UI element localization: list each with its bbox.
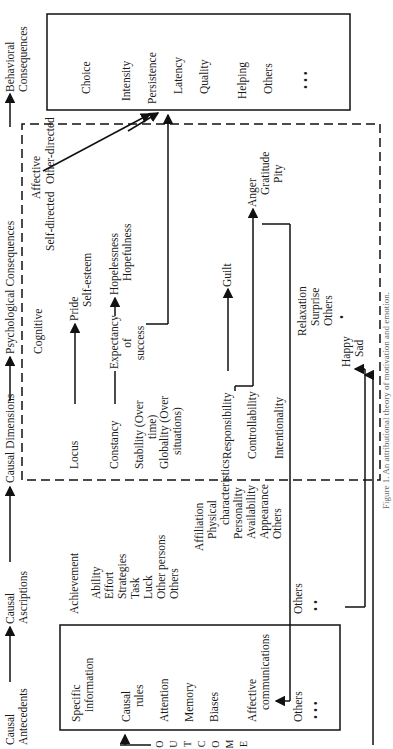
label-line: Gratitude xyxy=(259,152,272,207)
label-line: Pity xyxy=(272,152,285,207)
label-line: success xyxy=(134,317,147,369)
dimension-stability: Stability (Over time) xyxy=(133,400,159,469)
dimension-controllability: Controllability xyxy=(246,391,259,459)
antecedent-ellipsis: • • • xyxy=(310,701,323,719)
ascription-item: Availability xyxy=(245,459,258,539)
label-line: Hopelessness xyxy=(108,224,121,296)
label-line: Relaxation xyxy=(296,286,309,336)
dimension-intentionality: Intentionality xyxy=(273,397,286,459)
antecedent-affective-communications: Affective communications xyxy=(246,634,272,722)
psych-expectancy-of-success: Expectancy of success xyxy=(108,317,147,369)
label-line: information xyxy=(83,658,96,722)
label-line: Causal xyxy=(120,685,133,722)
ascription-item: Other persons xyxy=(155,535,168,599)
header-line: Consequences xyxy=(17,26,30,92)
label-line: of xyxy=(121,317,134,369)
header-line: Antecedents xyxy=(17,688,30,745)
ascription-affiliation: Affiliation xyxy=(193,503,206,551)
header-line: Behavioral xyxy=(4,26,17,92)
label-line: Specific xyxy=(70,658,83,722)
label-line: Affective xyxy=(246,634,259,722)
label-line: Pride xyxy=(68,253,81,321)
ascription-item: Luck xyxy=(142,535,155,599)
behavior-helping: Helping xyxy=(236,62,249,99)
ascription-achievement-list: Ability Effort Strategies Task Luck Othe… xyxy=(90,535,181,599)
behavior-choice: Choice xyxy=(80,61,93,94)
ascription-item: Appearance xyxy=(258,459,271,539)
label-line: Hopefulness xyxy=(121,224,134,296)
psych-anger-gratitude-pity: Anger Gratitude Pity xyxy=(246,152,285,207)
header-line: Ascriptions xyxy=(17,571,30,624)
outcome-letter: E xyxy=(237,739,251,749)
psych-affective: Affective xyxy=(30,156,43,199)
ascription-item: Others xyxy=(271,459,284,539)
behavior-latency: Latency xyxy=(172,57,185,94)
outcome-letter: T xyxy=(181,739,195,749)
label-line: Self-esteem xyxy=(81,253,94,321)
ascription-others: Others xyxy=(292,583,305,614)
behavior-quality: Quality xyxy=(198,60,211,95)
outcome-letter: U xyxy=(167,739,181,749)
psych-other-directed: Other-directed xyxy=(44,117,57,184)
behavior-persistence: Persistence xyxy=(146,52,159,104)
dimension-responsibility: Responsibility xyxy=(221,393,234,459)
antecedent-attention: Attention xyxy=(158,679,171,722)
behavior-intensity: Intensity xyxy=(120,61,133,101)
antecedent-biases: Biases xyxy=(208,692,221,722)
ascription-item: Personality xyxy=(232,459,245,539)
header-psychological-consequences: Psychological Consequences xyxy=(4,221,17,354)
dimension-constancy: Constancy xyxy=(108,420,121,469)
label-line: rules xyxy=(133,685,146,722)
attribution-diagram: Causal Antecedents Causal Ascriptions Ca… xyxy=(0,0,393,749)
outcome-letter: O xyxy=(209,739,223,749)
outcome-letter: M xyxy=(223,739,237,749)
dimension-globality: Globality (Over situations) xyxy=(158,396,184,469)
ascription-item: Task xyxy=(129,535,142,599)
label-line: communications xyxy=(259,634,272,722)
label-line: Happy xyxy=(340,336,353,367)
antecedent-others: Others xyxy=(292,691,305,722)
outcome-label: O U T C O M E xyxy=(153,739,251,749)
outcome-letter: O xyxy=(153,739,167,749)
label-line: Stability (Over xyxy=(133,400,146,469)
ascription-item: Effort xyxy=(103,535,116,599)
ascription-item: Strategies xyxy=(116,535,129,599)
diagram-lines xyxy=(0,0,393,749)
label-line: Others xyxy=(322,286,335,336)
ascription-item: Others xyxy=(168,535,181,599)
ascription-item: Physical xyxy=(206,459,219,539)
antecedent-causal-rules: Causal rules xyxy=(120,685,146,722)
header-causal-antecedents: Causal Antecedents xyxy=(4,688,30,745)
ascription-achievement: Achievement xyxy=(68,553,81,614)
psych-misc-emotions: Relaxation Surprise Others xyxy=(296,286,335,336)
label-line: Globality (Over xyxy=(158,396,171,469)
psych-happy-sad: Happy Sad xyxy=(340,336,366,367)
psych-self-directed: Self-directed xyxy=(44,192,57,251)
behavior-others: Others xyxy=(262,63,275,94)
psych-cognitive: Cognitive xyxy=(32,309,45,354)
ascription-ellipsis: • • xyxy=(310,600,323,611)
psych-pride: Pride Self-esteem xyxy=(68,253,94,321)
figure-caption: Figure 1. An attributional theory of mot… xyxy=(380,292,393,509)
dimension-locus: Locus xyxy=(68,441,81,469)
header-behavioral-consequences: Behavioral Consequences xyxy=(4,26,30,92)
header-line: Causal xyxy=(4,571,17,624)
antecedent-memory: Memory xyxy=(183,682,196,722)
label-line: Surprise xyxy=(309,286,322,336)
label-line: situations) xyxy=(171,396,184,469)
ascription-item: Ability xyxy=(90,535,103,599)
antecedent-specific-information: Specific information xyxy=(70,658,96,722)
ascription-affiliation-list: Physical characteristics Personality Ava… xyxy=(206,459,284,539)
label-line: Sad xyxy=(353,336,366,367)
header-causal-ascriptions: Causal Ascriptions xyxy=(4,571,30,624)
psych-ellipsis: • xyxy=(336,315,349,319)
psych-hope: Hopelessness Hopefulness xyxy=(108,224,134,296)
ascription-item: characteristics xyxy=(219,459,232,539)
outcome-letter: C xyxy=(195,739,209,749)
header-line: Causal xyxy=(4,688,17,745)
label-line: Expectancy xyxy=(108,317,121,369)
behavior-ellipsis: • • • xyxy=(300,71,313,89)
psych-guilt: Guilt xyxy=(221,263,234,287)
label-line: Anger xyxy=(246,152,259,207)
header-causal-dimensions: Causal Dimensions xyxy=(4,394,17,483)
